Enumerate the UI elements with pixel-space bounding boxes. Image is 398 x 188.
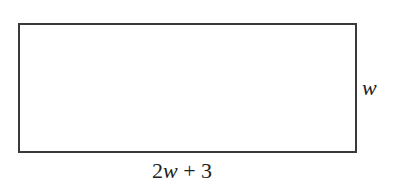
base-coefficient: 2 xyxy=(152,158,163,183)
base-constant: + 3 xyxy=(178,158,212,183)
rectangle-shape xyxy=(18,23,357,153)
base-variable: w xyxy=(163,158,178,183)
base-length-label: 2w + 3 xyxy=(152,160,212,182)
height-label: w xyxy=(362,77,377,99)
